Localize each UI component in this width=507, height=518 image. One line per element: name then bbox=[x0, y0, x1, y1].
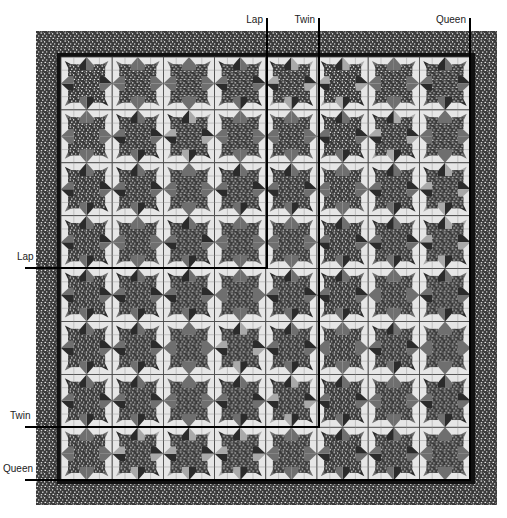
quilt-block bbox=[215, 427, 266, 480]
quilt-block bbox=[163, 374, 214, 427]
quilt-block bbox=[61, 374, 112, 427]
quilt-block bbox=[215, 216, 266, 269]
quilt-block bbox=[317, 110, 368, 163]
quilt-block bbox=[112, 163, 163, 216]
quilt-block bbox=[61, 427, 112, 480]
quilt-diagram bbox=[0, 0, 507, 518]
quilt-block bbox=[61, 322, 112, 375]
quilt-block bbox=[112, 322, 163, 375]
quilt-block bbox=[317, 57, 368, 110]
lap-top-label: Lap bbox=[246, 15, 263, 25]
quilt-block bbox=[317, 269, 368, 322]
quilt-block bbox=[419, 110, 470, 163]
quilt-block bbox=[317, 427, 368, 480]
quilt-block bbox=[317, 374, 368, 427]
queen-side-label: Queen bbox=[3, 464, 33, 474]
quilt-block bbox=[266, 216, 317, 269]
quilt-block bbox=[266, 110, 317, 163]
quilt-block bbox=[368, 269, 419, 322]
twin-top-label: Twin bbox=[294, 15, 315, 25]
quilt-block bbox=[419, 57, 470, 110]
quilt-block bbox=[266, 269, 317, 322]
quilt-block bbox=[112, 269, 163, 322]
quilt-block bbox=[419, 427, 470, 480]
quilt-block bbox=[215, 110, 266, 163]
quilt-block bbox=[368, 216, 419, 269]
quilt-block bbox=[215, 322, 266, 375]
quilt-block bbox=[368, 110, 419, 163]
quilt-block bbox=[163, 322, 214, 375]
quilt-block bbox=[163, 163, 214, 216]
quilt-block bbox=[368, 57, 419, 110]
quilt-block bbox=[419, 269, 470, 322]
quilt-block bbox=[419, 163, 470, 216]
quilt-block bbox=[112, 57, 163, 110]
quilt-block bbox=[368, 374, 419, 427]
quilt-block bbox=[419, 216, 470, 269]
quilt-block bbox=[163, 110, 214, 163]
quilt-block bbox=[215, 374, 266, 427]
queen-top-label: Queen bbox=[436, 15, 466, 25]
quilt-block bbox=[112, 110, 163, 163]
quilt-block bbox=[266, 374, 317, 427]
quilt-block bbox=[61, 57, 112, 110]
quilt-block bbox=[317, 163, 368, 216]
quilt-block bbox=[163, 216, 214, 269]
quilt-block bbox=[266, 427, 317, 480]
quilt-block bbox=[419, 322, 470, 375]
quilt-block bbox=[163, 269, 214, 322]
quilt-block bbox=[317, 322, 368, 375]
quilt-block bbox=[317, 216, 368, 269]
quilt-block bbox=[112, 427, 163, 480]
quilt-block bbox=[266, 322, 317, 375]
quilt-block bbox=[61, 110, 112, 163]
quilt-block bbox=[215, 57, 266, 110]
quilt-block bbox=[368, 427, 419, 480]
quilt-block bbox=[419, 374, 470, 427]
quilt-block bbox=[112, 374, 163, 427]
quilt-block bbox=[368, 163, 419, 216]
quilt-block bbox=[215, 163, 266, 216]
quilt-block bbox=[368, 322, 419, 375]
quilt-block bbox=[266, 163, 317, 216]
quilt-block bbox=[215, 269, 266, 322]
quilt-block bbox=[112, 216, 163, 269]
quilt-block bbox=[61, 269, 112, 322]
quilt-block bbox=[163, 57, 214, 110]
quilt-block bbox=[61, 216, 112, 269]
lap-side-label: Lap bbox=[17, 252, 34, 262]
twin-side-label: Twin bbox=[10, 411, 31, 421]
quilt-block bbox=[61, 163, 112, 216]
quilt-block bbox=[163, 427, 214, 480]
quilt-block bbox=[266, 57, 317, 110]
